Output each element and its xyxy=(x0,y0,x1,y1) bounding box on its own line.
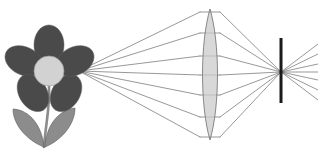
diverging-ray xyxy=(281,54,318,72)
converging-lens xyxy=(203,9,218,140)
incident-ray xyxy=(79,56,200,71)
refracted-ray xyxy=(220,72,281,75)
flower-object xyxy=(0,25,99,147)
lens-body xyxy=(203,9,218,140)
diagram-canvas xyxy=(0,0,318,153)
refracted-ray xyxy=(220,72,281,95)
flower-center-disc xyxy=(34,56,64,86)
refracted-ray xyxy=(220,33,281,72)
optics-ray-diagram: Converging lens forming a real image of … xyxy=(0,0,318,153)
refracted-ray xyxy=(220,12,281,72)
incident-ray xyxy=(79,71,200,137)
flower-center xyxy=(34,56,64,86)
right-leaf xyxy=(45,108,75,147)
refracted-ray xyxy=(220,72,281,117)
diverging-ray xyxy=(281,72,318,90)
left-leaf xyxy=(13,109,44,147)
refracted-ray xyxy=(220,56,281,72)
incident-ray xyxy=(79,71,200,117)
incident-ray xyxy=(79,33,200,71)
refracted-ray xyxy=(220,72,281,137)
incident-ray xyxy=(79,12,200,71)
